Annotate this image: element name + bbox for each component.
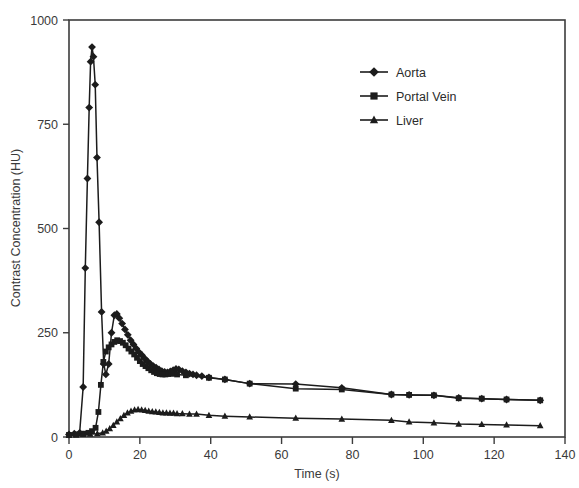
contrast-concentration-chart: 02505007501000 020406080100120140 Contra… [0,0,579,488]
data-point-marker [247,381,253,387]
x-tick-label: 40 [204,448,218,462]
data-point-marker [431,392,437,398]
data-point-marker [100,359,106,365]
legend-item-aorta[interactable]: Aorta [360,66,426,80]
data-point-marker [81,264,89,272]
y-tick-label: 250 [37,326,58,340]
data-point-marker [456,395,462,401]
legend-marker-square-icon [370,92,377,99]
legend-label: Liver [396,114,423,128]
data-point-marker [293,386,299,392]
y-tick-label: 750 [37,118,58,132]
y-axis-ticks: 02505007501000 [30,14,69,445]
data-point-marker [183,372,189,378]
y-tick-label: 1000 [30,14,58,28]
x-tick-label: 80 [345,448,359,462]
chart-legend: AortaPortal VeinLiver [360,66,457,128]
x-tick-label: 0 [66,448,73,462]
data-point-marker [93,154,101,162]
x-tick-label: 140 [555,448,576,462]
data-point-marker [95,218,103,226]
series-liver [66,406,544,438]
y-tick-label: 0 [51,431,58,445]
legend-label: Portal Vein [396,90,457,104]
series-line [69,409,540,435]
data-point-marker [102,371,110,379]
x-axis-ticks: 020406080100120140 [66,437,576,462]
series-line [69,47,540,434]
data-point-marker [537,397,543,403]
y-axis-title: Contrast Concentration (HU) [9,149,23,307]
legend-item-liver[interactable]: Liver [360,114,423,128]
data-series-group [65,43,544,438]
data-point-marker [479,396,485,402]
x-axis-title: Time (s) [294,467,339,481]
plot-frame [69,20,565,437]
data-point-marker [91,81,99,89]
data-point-marker [108,329,116,337]
x-tick-label: 20 [133,448,147,462]
data-point-marker [85,104,93,112]
data-point-marker [98,382,104,388]
data-point-marker [98,308,106,316]
data-point-marker [206,375,212,381]
data-point-marker [79,383,87,391]
data-point-marker [84,175,92,183]
series-aorta [65,43,544,438]
data-point-marker [406,392,412,398]
y-tick-label: 500 [37,222,58,236]
data-point-marker [222,377,228,383]
x-tick-label: 60 [275,448,289,462]
legend-label: Aorta [396,66,426,80]
chart-canvas: 02505007501000 020406080100120140 Contra… [0,0,579,488]
x-tick-label: 100 [413,448,434,462]
data-point-marker [174,372,180,378]
legend-marker-diamond-icon [369,67,379,77]
data-point-marker [504,397,510,403]
data-point-marker [339,387,345,393]
x-tick-label: 120 [484,448,505,462]
legend-item-portal-vein[interactable]: Portal Vein [360,90,457,104]
data-point-marker [389,392,395,398]
data-point-marker [93,425,99,431]
data-point-marker [88,43,96,51]
data-point-marker [96,409,102,415]
